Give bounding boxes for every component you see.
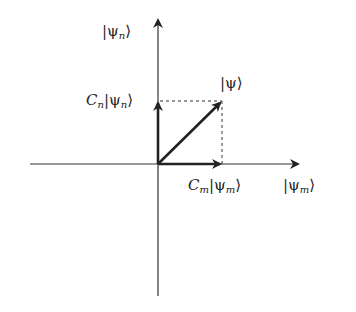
vector-diagram [0, 0, 356, 312]
axis-label-psi-m: |ψm⟩ [283, 178, 315, 195]
vector-psi [158, 103, 220, 164]
vector-label-cm-psi-m: Cm|ψm⟩ [188, 178, 241, 195]
vector-label-psi: |ψ⟩ [220, 76, 243, 91]
vector-label-cn-psi-n: Cn|ψn⟩ [86, 93, 133, 110]
axis-label-psi-n: |ψn⟩ [102, 24, 131, 41]
